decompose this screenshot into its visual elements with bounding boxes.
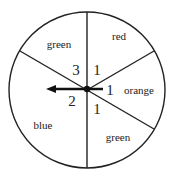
sector-label-orange: orange	[124, 84, 154, 96]
sector-number-green-top: 3	[72, 62, 80, 78]
sector-number-blue: 2	[68, 93, 76, 109]
pointer-hub	[84, 86, 90, 92]
spinner-diagram: red orange green blue green 1 1 1 2 3	[0, 0, 181, 177]
sector-number-orange: 1	[106, 82, 114, 98]
sector-number-green-bottom: 1	[93, 101, 101, 117]
sector-label-red: red	[112, 30, 127, 42]
arrow-left-icon	[46, 85, 56, 93]
sector-label-blue: blue	[34, 119, 53, 131]
sector-number-red: 1	[93, 62, 101, 78]
sector-label-green-top: green	[47, 38, 72, 50]
sector-label-green-bottom: green	[106, 131, 131, 143]
